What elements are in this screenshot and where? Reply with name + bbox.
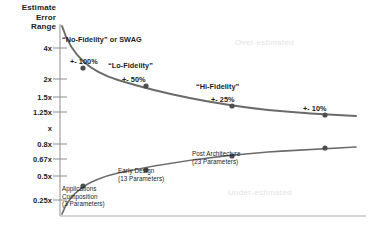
- marker-upper-50pct: [143, 83, 148, 88]
- label-post-architecture: Post Architecture (23 Parameters): [192, 150, 270, 165]
- label-applications-composition: Applications Composition (3 Parameters): [62, 185, 138, 208]
- plot-area: [0, 0, 371, 232]
- label-plus-minus-100: +- 100%: [70, 57, 98, 66]
- label-plus-minus-10: +- 10%: [303, 104, 327, 113]
- chart-root: Estimate Error Range 4x 2x 1.5x 1.25x x …: [0, 0, 371, 232]
- post-architecture-line-2: (23 Parameters): [192, 158, 270, 166]
- marker-lower-right: [322, 145, 327, 150]
- apps-composition-line-1: Applications: [62, 185, 138, 193]
- label-lo-fidelity: “Lo-Fidelity”: [108, 61, 153, 70]
- under-estimated-watermark: Under-estimated: [228, 188, 292, 197]
- apps-composition-line-3: (3 Parameters): [62, 200, 138, 208]
- marker-upper-10pct: [322, 112, 327, 117]
- label-early-design: Early Design (13 Parameters): [118, 167, 190, 182]
- marker-upper-100pct: [80, 65, 85, 70]
- early-design-line-2: (13 Parameters): [118, 175, 190, 183]
- early-design-line-1: Early Design: [118, 167, 190, 175]
- over-estimated-watermark: Over-estimated: [235, 38, 294, 47]
- post-architecture-line-1: Post Architecture: [192, 150, 270, 158]
- marker-upper-25pct: [229, 103, 234, 108]
- label-plus-minus-25: +- 25%: [211, 95, 235, 104]
- label-plus-minus-50: +- 50%: [122, 75, 146, 84]
- label-no-fidelity: “No-Fidelity” or SWAG: [62, 35, 142, 44]
- apps-composition-line-2: Composition: [62, 193, 138, 201]
- label-hi-fidelity: “Hi-Fidelity”: [196, 82, 239, 91]
